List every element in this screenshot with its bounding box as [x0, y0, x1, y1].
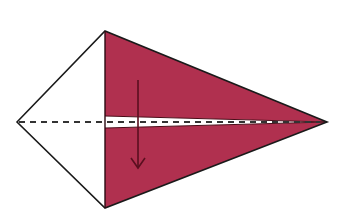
white-left-panel [17, 31, 105, 208]
origami-diagram: Origami fold step: fold top flap down al… [0, 0, 362, 215]
diagram-canvas [0, 0, 362, 215]
